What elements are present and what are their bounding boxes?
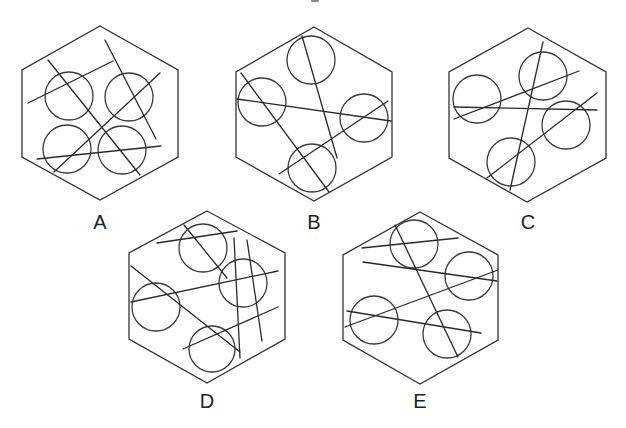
option-a[interactable]: A (22, 26, 178, 233)
circle-e-2 (445, 252, 493, 300)
puzzle-figure: A B C D E (0, 0, 626, 428)
circle-b-3 (340, 94, 388, 142)
line-b-4 (279, 101, 388, 174)
circle-d-2 (219, 259, 267, 307)
circle-b-1 (287, 36, 335, 84)
hexagon-e (343, 212, 498, 384)
line-e-4 (345, 270, 498, 327)
circle-c-3 (542, 101, 590, 149)
option-label-d: D (200, 390, 214, 412)
option-label-b: B (307, 211, 320, 233)
line-c-2 (454, 71, 579, 119)
circle-c-4 (487, 138, 535, 186)
line-d-4 (247, 240, 262, 341)
hexagon-a (22, 26, 178, 200)
line-a-2 (48, 60, 140, 175)
hexagon-c (449, 28, 606, 202)
circle-a-2 (105, 73, 153, 121)
circle-a-3 (43, 125, 91, 173)
option-label-e: E (413, 390, 426, 412)
line-a-3 (105, 40, 156, 139)
line-e-2 (395, 225, 458, 357)
option-label-a: A (93, 211, 107, 233)
line-c-4 (487, 93, 597, 178)
line-b-2 (241, 73, 329, 192)
line-b-1 (302, 36, 337, 158)
line-b-3 (237, 99, 391, 121)
option-c[interactable]: C (449, 28, 606, 233)
line-c-1 (510, 42, 543, 190)
circle-c-2 (519, 52, 567, 100)
cropped-text-fragment (311, 0, 319, 2)
line-d-6 (131, 266, 240, 352)
option-e[interactable]: E (343, 212, 498, 412)
circle-a-1 (45, 72, 93, 120)
circle-d-4 (189, 326, 235, 372)
line-d-7 (183, 307, 278, 349)
option-d[interactable]: D (129, 211, 285, 412)
circle-e-3 (350, 296, 398, 344)
line-a-1 (28, 61, 113, 103)
option-label-c: C (521, 211, 535, 233)
circle-d-3 (132, 283, 180, 331)
line-d-3 (234, 238, 240, 358)
line-e-1 (362, 238, 458, 248)
option-b[interactable]: B (236, 27, 392, 233)
circle-c-1 (453, 75, 501, 123)
